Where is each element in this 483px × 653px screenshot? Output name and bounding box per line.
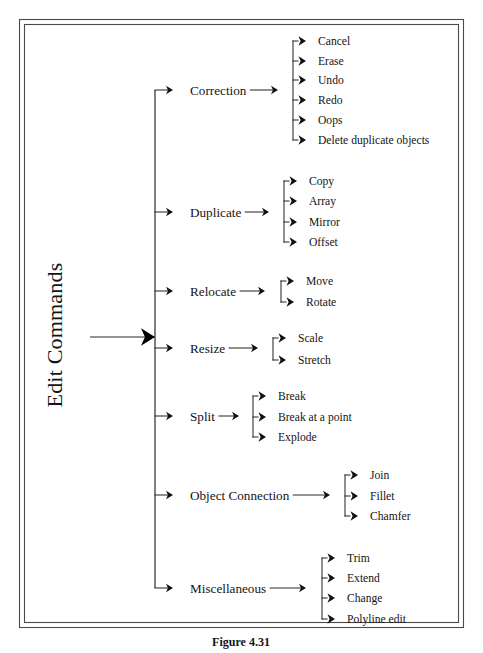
arrowhead-icon: [299, 75, 307, 84]
root-node-group: Edit Commands: [42, 263, 155, 408]
leaf-node: Break: [253, 390, 306, 403]
category-label-resize: Resize: [190, 341, 225, 356]
leaf-label-erase: Erase: [318, 55, 344, 68]
leaf-label-mirror: Mirror: [309, 216, 340, 229]
arrowhead-icon: [259, 432, 267, 441]
branch-correction: CorrectionCancelEraseUndoRedoOopsDelete …: [155, 35, 430, 147]
figure-inner-border: [25, 25, 459, 623]
arrowhead-icon: [299, 36, 307, 45]
leaf-node: Erase: [293, 55, 344, 68]
category-label-correction: Correction: [190, 83, 247, 98]
arrowhead-icon: [351, 491, 359, 500]
figure-container: Edit Commands CorrectionCancelEraseUndoR…: [0, 0, 483, 653]
leaf-label-fillet: Fillet: [370, 490, 395, 503]
leaf-node: Move: [281, 275, 333, 288]
leaf-label-polyline-edit: Polyline edit: [347, 613, 407, 626]
leaf-node: Stretch: [273, 354, 331, 367]
arrowhead-icon: [299, 115, 307, 124]
leaf-node: Redo: [293, 94, 343, 107]
leaf-node: Break at a point: [253, 411, 353, 424]
arrowhead-icon: [328, 593, 336, 602]
leaf-node: Copy: [284, 175, 334, 188]
edit-commands-tree-diagram: Edit Commands CorrectionCancelEraseUndoR…: [0, 0, 483, 653]
leaf-label-oops: Oops: [318, 114, 343, 127]
branch-resize: ResizeScaleStretch: [155, 332, 331, 367]
arrowhead-icon: [290, 196, 298, 205]
leaf-label-break: Break: [278, 390, 306, 403]
leaf-node: Polyline edit: [322, 613, 407, 626]
arrowhead-icon: [279, 333, 287, 342]
leaf-label-trim: Trim: [347, 552, 370, 565]
arrowhead-icon: [259, 391, 267, 400]
arrowhead-icon: [290, 176, 298, 185]
leaf-label-copy: Copy: [309, 175, 334, 188]
branch-object-connection: Object ConnectionJoinFilletChamfer: [155, 469, 411, 523]
category-label-object-connection: Object Connection: [190, 488, 290, 503]
category-label-duplicate: Duplicate: [190, 205, 241, 220]
leaf-label-join: Join: [370, 469, 390, 482]
leaf-label-chamfer: Chamfer: [370, 510, 411, 523]
arrowhead-icon: [351, 511, 359, 520]
arrowhead-icon: [290, 237, 298, 246]
category-label-relocate: Relocate: [190, 284, 236, 299]
leaf-node: Undo: [293, 74, 344, 87]
category-label-miscellaneous: Miscellaneous: [190, 581, 266, 596]
leaf-node: Oops: [293, 114, 343, 127]
leaf-label-explode: Explode: [278, 431, 317, 444]
branch-miscellaneous: MiscellaneousTrimExtendChangePolyline ed…: [155, 552, 407, 626]
leaf-label-move: Move: [306, 275, 333, 288]
leaf-label-undo: Undo: [318, 74, 344, 87]
leaf-node: Extend: [322, 572, 380, 585]
leaf-node: Scale: [273, 332, 323, 345]
leaf-node: Chamfer: [345, 510, 411, 523]
leaf-node: Array: [284, 195, 336, 208]
branch-duplicate: DuplicateCopyArrayMirrorOffset: [155, 175, 340, 249]
leaf-label-scale: Scale: [298, 332, 323, 345]
arrowhead-icon: [287, 297, 295, 306]
leaf-label-break-at-a-point: Break at a point: [278, 411, 353, 424]
category-label-split: Split: [190, 409, 215, 424]
leaf-label-offset: Offset: [309, 236, 339, 249]
leaf-node: Mirror: [284, 216, 340, 229]
leaf-node: Trim: [322, 552, 370, 565]
root-label-edit-commands: Edit Commands: [42, 263, 67, 408]
leaf-node: Explode: [253, 431, 317, 444]
leaf-node: Cancel: [293, 35, 350, 48]
leaf-node: Offset: [284, 236, 339, 249]
arrowhead-icon: [299, 135, 307, 144]
leaf-node: Fillet: [345, 490, 395, 503]
leaf-label-stretch: Stretch: [298, 354, 331, 367]
leaf-label-rotate: Rotate: [306, 296, 336, 309]
leaf-node: Delete duplicate objects: [293, 134, 430, 147]
root-stem: [90, 328, 155, 345]
leaf-node: Rotate: [281, 296, 336, 309]
arrowhead-icon: [279, 355, 287, 364]
leaf-label-array: Array: [309, 195, 336, 208]
branch-split: SplitBreakBreak at a pointExplode: [155, 390, 353, 444]
branch-relocate: RelocateMoveRotate: [155, 275, 336, 309]
leaf-node: Join: [345, 469, 390, 482]
leaf-label-change: Change: [347, 592, 382, 605]
arrowhead-icon: [328, 553, 336, 562]
arrowhead-icon: [259, 412, 267, 421]
arrowhead-icon: [299, 56, 307, 65]
figure-caption: Figure 4.31: [212, 635, 270, 649]
arrowhead-icon: [351, 470, 359, 479]
branch-groups: CorrectionCancelEraseUndoRedoOopsDelete …: [155, 35, 430, 626]
leaf-label-delete-duplicate-objects: Delete duplicate objects: [318, 134, 430, 147]
leaf-label-cancel: Cancel: [318, 35, 350, 48]
arrowhead-icon: [287, 276, 295, 285]
figure-outer-border: [20, 20, 464, 628]
arrowhead-icon: [290, 217, 298, 226]
arrowhead-icon: [328, 573, 336, 582]
leaf-node: Change: [322, 592, 382, 605]
leaf-label-redo: Redo: [318, 94, 343, 107]
arrowhead-icon: [299, 95, 307, 104]
leaf-label-extend: Extend: [347, 572, 380, 585]
